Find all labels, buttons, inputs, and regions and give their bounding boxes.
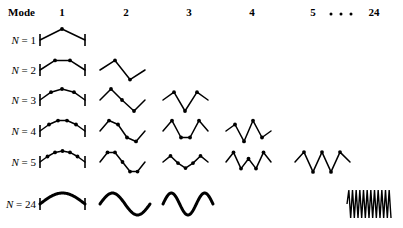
mode-cell-n2-mode1 bbox=[40, 59, 85, 76]
mass-dot bbox=[169, 154, 173, 158]
mass-dot bbox=[113, 151, 117, 155]
mass-dot bbox=[68, 151, 72, 155]
waveform-path bbox=[226, 121, 271, 142]
mass-dot bbox=[60, 87, 64, 91]
mass-dot bbox=[247, 157, 251, 161]
mode-cell-n24-mode3 bbox=[163, 193, 213, 215]
mass-dot bbox=[239, 167, 243, 171]
mass-dot bbox=[125, 136, 129, 140]
mass-dot bbox=[121, 160, 125, 164]
mass-dot bbox=[49, 90, 53, 94]
mode-cell-n4-mode1 bbox=[40, 119, 85, 137]
mass-dot bbox=[128, 78, 132, 82]
mass-dot bbox=[170, 119, 174, 123]
mass-dot bbox=[251, 119, 255, 123]
mass-dot bbox=[136, 170, 140, 174]
mass-dot bbox=[254, 167, 258, 171]
mass-dot bbox=[338, 150, 342, 154]
waveform-path bbox=[163, 121, 208, 138]
mode-cell-n24-mode24 bbox=[347, 190, 391, 218]
mass-dot bbox=[195, 90, 199, 94]
mass-dot bbox=[107, 119, 111, 123]
waveform-path bbox=[40, 60, 85, 70]
waveform-path bbox=[40, 121, 85, 131]
mass-dot bbox=[302, 150, 306, 154]
mass-dot bbox=[68, 59, 72, 63]
mode-cell-n3-mode3 bbox=[163, 90, 208, 113]
mode-cell-n3-mode2 bbox=[100, 87, 145, 113]
mass-dot bbox=[188, 136, 192, 140]
mass-dot bbox=[320, 150, 324, 154]
mass-dot bbox=[116, 123, 120, 127]
mass-dot bbox=[132, 109, 136, 113]
waveform-path bbox=[40, 193, 85, 204]
mass-dot bbox=[76, 155, 80, 159]
mass-dot bbox=[197, 119, 201, 123]
mass-dot bbox=[53, 59, 57, 63]
mass-dot bbox=[233, 123, 237, 127]
mass-dot bbox=[74, 123, 78, 127]
mass-dot bbox=[61, 149, 65, 153]
waveform-path bbox=[347, 190, 391, 218]
mode-cell-n5-mode2 bbox=[100, 151, 145, 174]
mass-dot bbox=[128, 170, 132, 174]
waveform-path bbox=[100, 193, 150, 215]
mass-dot bbox=[53, 151, 57, 155]
mass-dot bbox=[232, 151, 236, 155]
mass-dot bbox=[260, 136, 264, 140]
mode-cell-n5-mode4 bbox=[226, 151, 271, 171]
mass-dot bbox=[183, 109, 187, 113]
mass-dot bbox=[199, 154, 203, 158]
mass-dot bbox=[56, 119, 60, 123]
mass-dot bbox=[262, 151, 266, 155]
mass-dot bbox=[134, 140, 138, 144]
mode-cell-n24-mode2 bbox=[100, 193, 150, 215]
mass-dot bbox=[72, 90, 76, 94]
mass-dot bbox=[242, 140, 246, 144]
mass-dot bbox=[179, 136, 183, 140]
mode-cell-n5-mode5 bbox=[295, 150, 350, 174]
mass-dot bbox=[46, 155, 50, 159]
mass-dot bbox=[113, 59, 117, 63]
mode-cell-n5-mode3 bbox=[163, 154, 208, 170]
mass-dot bbox=[184, 166, 188, 170]
mass-dot bbox=[65, 119, 69, 123]
mode-cell-n4-mode2 bbox=[100, 119, 145, 144]
waveform-path bbox=[163, 92, 208, 111]
mass-dot bbox=[109, 87, 113, 91]
mass-dot bbox=[311, 170, 315, 174]
mass-dot bbox=[176, 161, 180, 165]
mass-dot bbox=[47, 123, 51, 127]
waveform-path bbox=[100, 60, 145, 79]
mode-cell-n1-mode1 bbox=[40, 27, 85, 46]
mass-dot bbox=[172, 90, 176, 94]
waveform-path bbox=[163, 193, 213, 215]
mode-cell-n3-mode1 bbox=[40, 87, 85, 106]
mode-cell-n4-mode3 bbox=[163, 119, 208, 140]
mode-cell-n5-mode1 bbox=[40, 149, 85, 168]
mass-dot bbox=[191, 161, 195, 165]
mode-waveforms bbox=[0, 0, 403, 228]
mass-dot bbox=[106, 151, 110, 155]
normal-modes-figure: Mode 1234524 N = 1N = 2N = 3N = 4N = 5N … bbox=[0, 0, 403, 228]
mass-dot bbox=[60, 27, 64, 31]
mass-dot bbox=[120, 98, 124, 102]
mass-dot bbox=[329, 170, 333, 174]
mode-cell-n4-mode4 bbox=[226, 119, 271, 144]
waveform-path bbox=[295, 152, 350, 172]
mode-cell-n2-mode2 bbox=[100, 59, 145, 82]
mode-cell-n24-mode1 bbox=[40, 193, 85, 210]
waveform-path bbox=[100, 121, 145, 142]
